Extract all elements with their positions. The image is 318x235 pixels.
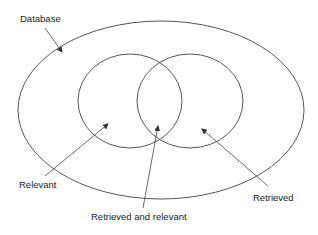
retrieved-circle: [137, 54, 243, 148]
relevant-circle: [78, 54, 182, 148]
retrieved-label: Retrieved: [253, 193, 294, 203]
relevant-label: Relevant: [19, 180, 57, 190]
retrieved-pointer-arrow: [202, 129, 268, 186]
retrieved-and-relevant-pointer-arrow: [143, 126, 158, 208]
database-pointer-arrow: [45, 28, 62, 52]
database-label: Database: [20, 14, 61, 24]
retrieved-and-relevant-label: Retrieved and relevant: [91, 212, 187, 222]
relevant-pointer-arrow: [45, 124, 108, 176]
database-ellipse: [18, 21, 304, 199]
